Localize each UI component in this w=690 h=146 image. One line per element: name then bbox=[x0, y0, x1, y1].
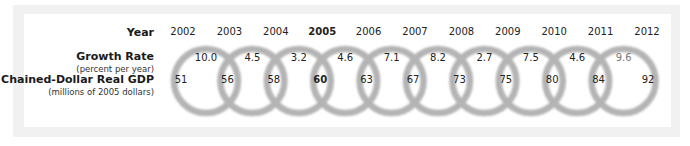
growth-rate-value: 9.6 bbox=[604, 52, 644, 63]
row-unit-gdp: (millions of 2005 dollars) bbox=[48, 87, 154, 97]
growth-rate-value: 3.2 bbox=[279, 52, 319, 63]
growth-rate-value: 4.6 bbox=[325, 52, 365, 63]
year-label: 2008 bbox=[441, 26, 481, 37]
growth-rate-value: 10.0 bbox=[186, 52, 226, 63]
gdp-value: 84 bbox=[579, 74, 619, 85]
gdp-value: 92 bbox=[628, 74, 668, 85]
row-label-gdp: Chained-Dollar Real GDP bbox=[1, 73, 154, 86]
gdp-value: 67 bbox=[393, 74, 433, 85]
growth-rate-value: 4.6 bbox=[557, 52, 597, 63]
year-label: 2002 bbox=[163, 26, 203, 37]
row-label-year: Year bbox=[127, 26, 154, 39]
growth-rate-value: 7.1 bbox=[372, 52, 412, 63]
year-label: 2009 bbox=[488, 26, 528, 37]
growth-rate-value: 2.7 bbox=[464, 52, 504, 63]
year-label: 2005 bbox=[302, 26, 342, 37]
gdp-value: 73 bbox=[439, 74, 479, 85]
growth-rate-value: 8.2 bbox=[418, 52, 458, 63]
growth-rate-value: 7.5 bbox=[511, 52, 551, 63]
gdp-value: 63 bbox=[347, 74, 387, 85]
gdp-value: 75 bbox=[486, 74, 526, 85]
year-label: 2006 bbox=[349, 26, 389, 37]
row-label-growth-rate: Growth Rate bbox=[76, 50, 154, 63]
year-label: 2007 bbox=[395, 26, 435, 37]
year-label: 2010 bbox=[534, 26, 574, 37]
year-label: 2003 bbox=[209, 26, 249, 37]
year-label: 2011 bbox=[581, 26, 621, 37]
year-label: 2004 bbox=[256, 26, 296, 37]
year-label: 2012 bbox=[627, 26, 667, 37]
gdp-value: 58 bbox=[254, 74, 294, 85]
gdp-value: 60 bbox=[300, 74, 340, 85]
gdp-value: 80 bbox=[532, 74, 572, 85]
gdp-value: 51 bbox=[161, 74, 201, 85]
gdp-value: 56 bbox=[207, 74, 247, 85]
growth-rate-value: 4.5 bbox=[232, 52, 272, 63]
